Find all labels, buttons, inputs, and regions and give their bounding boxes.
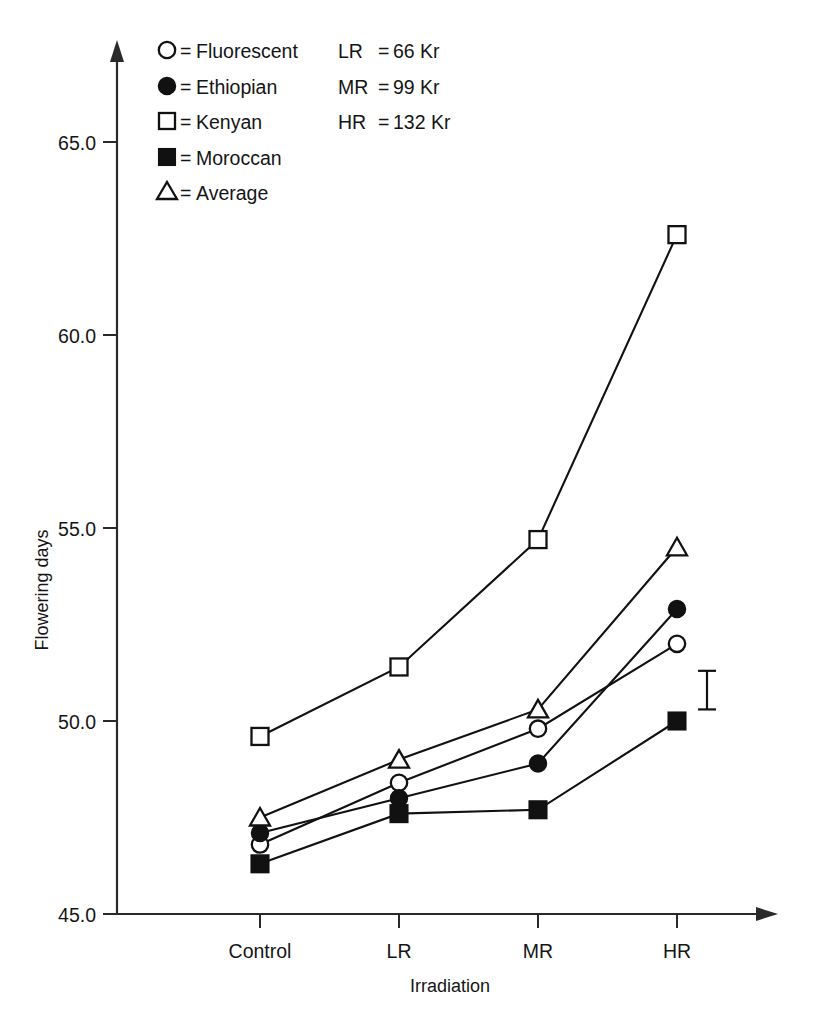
dose-equals-mr: = [378,76,389,98]
legend-label-fluorescent: Fluorescent [196,40,298,62]
y-tick-label-50: 50.0 [58,711,96,733]
dose-code-hr: HR [338,111,366,133]
y-tick-label-55: 55.0 [58,518,96,540]
chart-background [0,0,813,1009]
legend-label-average: Average [196,182,268,204]
data-point-ethiopian-hr [669,601,685,617]
dose-code-lr: LR [338,40,363,62]
dose-code-mr: MR [338,76,368,98]
dose-equals-lr: = [378,40,389,62]
data-point-ethiopian-mr [530,755,546,771]
legend-item-kenyan: = Kenyan [159,111,262,133]
legend-equals: = [180,111,191,133]
x-tick-label-control: Control [229,940,292,962]
data-point-fluorescent-mr [530,721,546,737]
y-tick-label-65: 65.0 [58,132,96,154]
data-point-kenyan-mr [530,531,547,548]
data-point-fluorescent-lr [391,775,407,791]
data-point-moroccan-control [252,855,269,872]
flowering-days-chart: = Fluorescent = Ethiopian = Kenyan = Mor… [0,0,813,1009]
data-point-fluorescent-hr [669,636,685,652]
data-point-kenyan-lr [391,658,408,675]
data-point-ethiopian-control [252,825,268,841]
data-point-kenyan-control [252,728,269,745]
x-tick-label-hr: HR [663,940,691,962]
y-tick-label-60: 60.0 [58,325,96,347]
filled-circle-icon [159,78,175,94]
y-tick-label-45: 45.0 [58,904,96,926]
legend-label-ethiopian: Ethiopian [196,76,277,98]
dose-value-lr: 66 Kr [393,40,440,62]
data-point-kenyan-hr [669,226,686,243]
legend-label-moroccan: Moroccan [196,147,282,169]
legend-equals: = [180,40,191,62]
open-square-icon [159,113,175,129]
dose-value-hr: 132 Kr [393,111,451,133]
data-point-moroccan-lr [391,805,408,822]
x-tick-label-lr: LR [387,940,412,962]
open-circle-icon [159,42,175,58]
legend-equals: = [180,147,191,169]
data-point-moroccan-hr [669,713,686,730]
x-axis-title: Irradiation [410,976,490,996]
dose-value-mr: 99 Kr [393,76,440,98]
legend-label-kenyan: Kenyan [196,111,262,133]
legend-dose-key: LR = 66 Kr MR = 99 Kr HR = 132 Kr [338,40,451,133]
y-axis-title: Flowering days [32,529,52,650]
data-point-ethiopian-lr [391,790,407,806]
data-point-moroccan-mr [530,801,547,818]
legend-equals: = [180,76,191,98]
chart-canvas: = Fluorescent = Ethiopian = Kenyan = Mor… [0,0,813,1009]
legend-equals: = [180,182,191,204]
legend-item-fluorescent: = Fluorescent [159,40,299,62]
filled-square-icon [159,149,175,165]
x-tick-label-mr: MR [523,940,553,962]
dose-equals-hr: = [378,111,389,133]
